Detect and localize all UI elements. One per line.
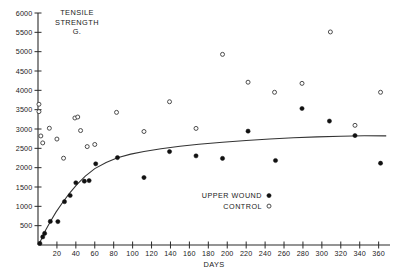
data-point: [220, 156, 224, 160]
x-tick-label: 300: [316, 249, 329, 258]
data-point: [246, 129, 250, 133]
scatter-plot: 5001000150020002500300035004000450050005…: [0, 0, 405, 272]
data-point: [273, 90, 277, 94]
x-tick-label: 100: [126, 249, 139, 258]
y-tick-label: 3000: [16, 125, 33, 134]
y-tick-label: 5000: [16, 47, 33, 56]
data-point: [48, 219, 52, 223]
data-point: [82, 179, 86, 183]
data-point: [93, 142, 97, 146]
x-tick-label: 260: [278, 249, 291, 258]
data-point: [85, 145, 89, 149]
chart-title-line: STRENGTH: [55, 18, 99, 27]
chart-title-line: TENSILE: [60, 8, 94, 17]
x-tick-label: 280: [297, 249, 310, 258]
data-point: [87, 179, 91, 183]
data-point: [37, 102, 41, 106]
data-point: [41, 141, 45, 145]
x-tick-label: 200: [221, 249, 234, 258]
data-point: [353, 133, 357, 137]
data-point: [43, 231, 47, 235]
y-tick-label: 2500: [16, 144, 33, 153]
y-tick-label: 1500: [16, 183, 33, 192]
data-point: [62, 156, 66, 160]
data-point: [328, 30, 332, 34]
x-tick-label: 120: [145, 249, 158, 258]
data-point: [379, 90, 383, 94]
y-tick-label: 4500: [16, 67, 33, 76]
x-tick-label: 360: [372, 249, 385, 258]
data-point: [94, 162, 98, 166]
x-tick-label: 220: [240, 249, 253, 258]
data-point: [168, 100, 172, 104]
data-point: [300, 81, 304, 85]
x-tick-label: 20: [53, 249, 61, 258]
data-point: [142, 130, 146, 134]
data-point: [115, 156, 119, 160]
x-axis-label: DAYS: [203, 260, 224, 269]
legend-marker: [267, 204, 271, 208]
data-point: [115, 110, 119, 114]
data-point: [327, 119, 331, 123]
legend-label: CONTROL: [223, 202, 262, 211]
data-point: [74, 181, 78, 185]
x-tick-label: 320: [334, 249, 347, 258]
data-point: [79, 129, 83, 133]
y-tick-label: 500: [20, 221, 33, 230]
data-point: [47, 126, 51, 130]
legend-marker: [267, 194, 271, 198]
data-point: [167, 150, 171, 154]
y-tick-label: 3500: [16, 105, 33, 114]
figure-container: 5001000150020002500300035004000450050005…: [0, 0, 405, 272]
data-point: [273, 158, 277, 162]
data-point: [68, 193, 72, 197]
y-tick-label: 5500: [16, 28, 33, 37]
chart-title-line: G.: [73, 27, 82, 36]
data-point: [353, 123, 357, 127]
x-axis-title: DAYS: [203, 260, 224, 269]
data-point: [221, 52, 225, 56]
x-tick-label: 140: [164, 249, 177, 258]
x-tick-label: 160: [183, 249, 196, 258]
data-point: [38, 241, 42, 245]
data-point: [37, 110, 41, 114]
x-tick-label: 340: [353, 249, 366, 258]
data-point: [246, 80, 250, 84]
data-point: [194, 154, 198, 158]
data-point: [142, 175, 146, 179]
y-tick-label: 1000: [16, 202, 33, 211]
y-tick-label: 6000: [16, 9, 33, 18]
data-point: [194, 126, 198, 130]
data-point: [300, 106, 304, 110]
data-point: [62, 200, 66, 204]
x-tick-label: 180: [202, 249, 215, 258]
x-tick-label: 80: [109, 249, 117, 258]
legend-label: UPPER WOUND: [202, 191, 262, 200]
y-tick-label: 4000: [16, 86, 33, 95]
x-tick-label: 240: [259, 249, 272, 258]
data-point: [76, 115, 80, 119]
y-tick-label: 2000: [16, 163, 33, 172]
data-point: [39, 134, 43, 138]
x-tick-label: 40: [72, 249, 80, 258]
data-point: [378, 161, 382, 165]
data-point: [55, 137, 59, 141]
data-point: [56, 220, 60, 224]
x-tick-label: 60: [91, 249, 99, 258]
